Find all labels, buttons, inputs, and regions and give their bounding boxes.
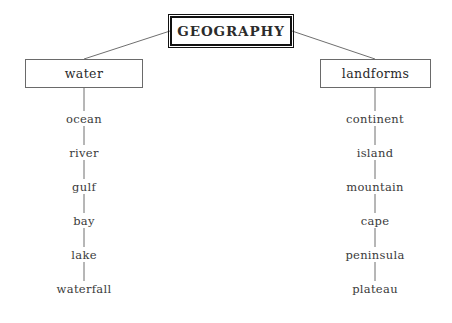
root-node-label: GEOGRAPHY (177, 23, 284, 39)
branch-node-label: landforms (342, 66, 410, 81)
leaf-landforms-3: mountain (346, 180, 404, 194)
leaf-landforms-4: cape (361, 214, 390, 228)
leaf-landforms-1: continent (346, 112, 404, 126)
branch-node-landforms: landforms (320, 59, 431, 88)
connector-lines (0, 0, 452, 323)
geography-concept-map: GEOGRAPHY water landforms ocean river gu… (0, 0, 452, 323)
leaf-landforms-2: island (357, 146, 394, 160)
leaf-landforms-6: plateau (352, 282, 398, 296)
leaf-water-4: bay (73, 214, 95, 228)
branch-node-label: water (65, 66, 104, 81)
leaf-water-3: gulf (72, 180, 96, 194)
leaf-landforms-5: peninsula (345, 248, 404, 262)
leaf-water-6: waterfall (57, 282, 112, 296)
branch-node-water: water (25, 59, 143, 88)
leaf-water-2: river (69, 146, 98, 160)
leaf-water-5: lake (71, 248, 97, 262)
root-node-geography: GEOGRAPHY (170, 16, 292, 46)
leaf-water-1: ocean (66, 112, 102, 126)
